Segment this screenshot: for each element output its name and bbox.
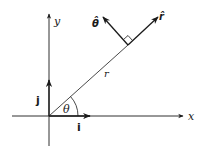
y-axis-label: y [53,15,61,28]
radius-line [49,45,128,116]
j-label: j [35,94,40,107]
theta-hat-label: θ̂ [92,16,99,29]
angle-arc [71,97,79,117]
right-angle-marker [124,36,133,41]
i-label: i [77,121,81,134]
radius-label: r [104,68,110,79]
polar-coordinates-diagram: x y j i r θ r̂ θ̂ [0,0,204,152]
r-hat-vector [128,17,158,45]
r-hat-label: r̂ [159,11,165,22]
theta-hat-vector [103,17,128,45]
angle-label: θ [63,103,70,116]
x-axis-label: x [188,110,195,123]
